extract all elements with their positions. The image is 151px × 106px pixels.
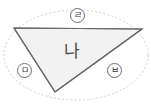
- geometry-figure: 나 ㄹ ㅁ ㅂ: [0, 0, 151, 106]
- vertex-label-left: ㅁ: [17, 63, 32, 78]
- center-region-label: 나: [57, 40, 87, 62]
- vertex-label-right: ㅂ: [107, 63, 122, 78]
- vertex-label-top: ㄹ: [70, 8, 85, 23]
